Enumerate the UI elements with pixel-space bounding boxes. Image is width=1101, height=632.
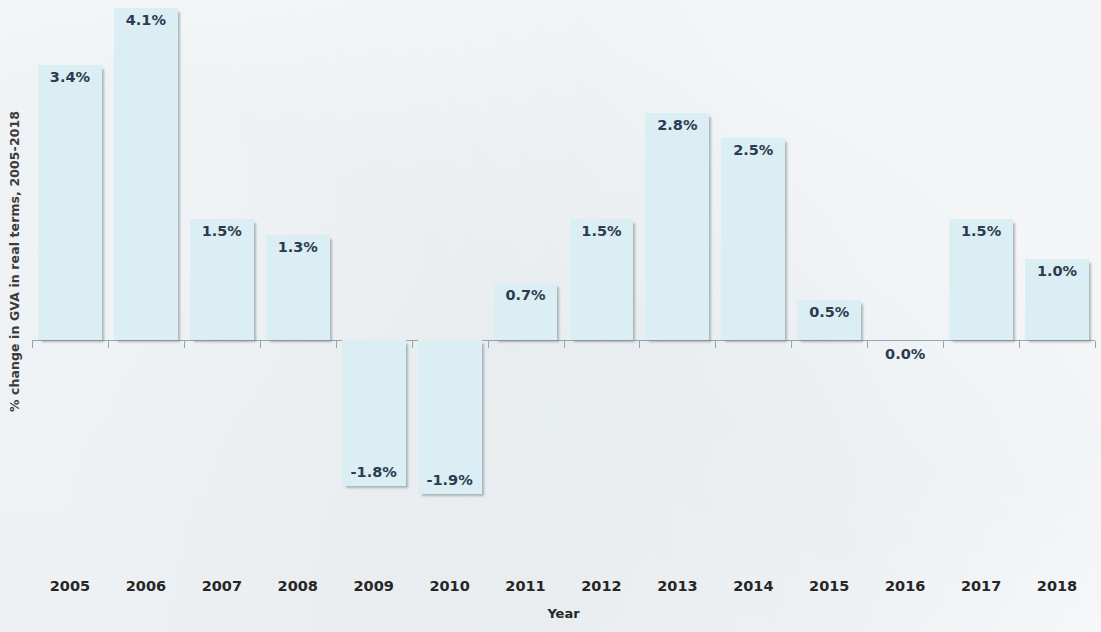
axis-tick <box>32 341 33 348</box>
x-tick-label-2016: 2016 <box>867 578 943 594</box>
axis-tick <box>1095 341 1096 348</box>
x-tick-label-2006: 2006 <box>108 578 184 594</box>
axis-tick <box>715 341 716 348</box>
bar-value-label: 4.1% <box>108 12 184 28</box>
bar[interactable] <box>721 138 785 341</box>
bar[interactable] <box>418 340 482 494</box>
bar-group-2008[interactable]: 1.3% <box>260 0 336 560</box>
x-tick-label-2011: 2011 <box>488 578 564 594</box>
bar-value-label: 0.0% <box>867 346 943 362</box>
bar-group-2012[interactable]: 1.5% <box>564 0 640 560</box>
axis-tick <box>412 341 413 348</box>
bar-group-2005[interactable]: 3.4% <box>32 0 108 560</box>
axis-tick <box>564 341 565 348</box>
axis-tick <box>184 341 185 348</box>
bar-value-label: 0.5% <box>791 304 867 320</box>
bar-value-label: 2.5% <box>715 142 791 158</box>
x-tick-label-2012: 2012 <box>564 578 640 594</box>
bar-group-2006[interactable]: 4.1% <box>108 0 184 560</box>
x-tick-label-2018: 2018 <box>1019 578 1095 594</box>
bar-group-2016[interactable]: 0.0% <box>867 0 943 560</box>
axis-tick <box>336 341 337 348</box>
axis-tick <box>791 341 792 348</box>
x-tick-label-2014: 2014 <box>715 578 791 594</box>
bar-group-2014[interactable]: 2.5% <box>715 0 791 560</box>
y-axis-title-text: % change in GVA in real terms, 2005-2018 <box>8 110 23 411</box>
bar[interactable] <box>645 113 709 340</box>
bar-value-label: 3.4% <box>32 69 108 85</box>
bar-value-label: 2.8% <box>639 117 715 133</box>
x-tick-label-2005: 2005 <box>32 578 108 594</box>
bar[interactable] <box>38 65 102 340</box>
bar-value-label: 1.0% <box>1019 263 1095 279</box>
bar-group-2017[interactable]: 1.5% <box>943 0 1019 560</box>
x-tick-label-2015: 2015 <box>791 578 867 594</box>
axis-tick <box>108 341 109 348</box>
plot-area: 3.4%4.1%1.5%1.3%-1.8%-1.9%0.7%1.5%2.8%2.… <box>32 0 1095 560</box>
bar-group-2007[interactable]: 1.5% <box>184 0 260 560</box>
axis-tick <box>867 341 868 348</box>
bar-value-label: -1.8% <box>336 464 412 480</box>
x-axis-title: Year <box>32 606 1095 621</box>
bar-value-label: 1.3% <box>260 239 336 255</box>
bar-value-label: 1.5% <box>564 223 640 239</box>
x-tick-label-2013: 2013 <box>639 578 715 594</box>
bar-value-label: -1.9% <box>412 472 488 488</box>
bar-group-2011[interactable]: 0.7% <box>488 0 564 560</box>
axis-tick <box>1019 341 1020 348</box>
axis-tick <box>260 341 261 348</box>
x-tick-label-2009: 2009 <box>336 578 412 594</box>
bar-group-2015[interactable]: 0.5% <box>791 0 867 560</box>
x-tick-label-2010: 2010 <box>412 578 488 594</box>
y-axis-title: % change in GVA in real terms, 2005-2018 <box>2 0 28 632</box>
bar[interactable] <box>114 8 178 340</box>
x-axis-tick-labels: 2005200620072008200920102011201220132014… <box>32 578 1095 602</box>
bar-chart: % change in GVA in real terms, 2005-2018… <box>0 0 1101 632</box>
axis-tick <box>639 341 640 348</box>
axis-tick <box>943 341 944 348</box>
x-tick-label-2008: 2008 <box>260 578 336 594</box>
bar-value-label: 0.7% <box>488 287 564 303</box>
x-tick-label-2017: 2017 <box>943 578 1019 594</box>
bar-value-label: 1.5% <box>184 223 260 239</box>
axis-tick <box>488 341 489 348</box>
bar-group-2010[interactable]: -1.9% <box>412 0 488 560</box>
bar-value-label: 1.5% <box>943 223 1019 239</box>
bar-group-2009[interactable]: -1.8% <box>336 0 412 560</box>
bar-group-2013[interactable]: 2.8% <box>639 0 715 560</box>
x-tick-label-2007: 2007 <box>184 578 260 594</box>
bar-group-2018[interactable]: 1.0% <box>1019 0 1095 560</box>
